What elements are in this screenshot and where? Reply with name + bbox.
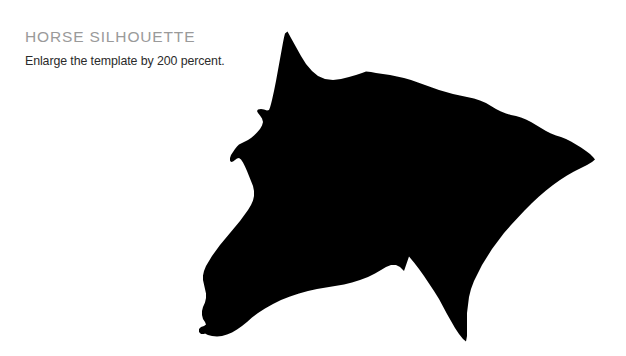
template-page: HORSE SILHOUETTE Enlarge the template by… — [0, 0, 626, 356]
horse-head-silhouette-icon — [199, 32, 595, 342]
page-title: HORSE SILHOUETTE — [25, 28, 225, 46]
page-subtitle: Enlarge the template by 200 percent. — [25, 46, 225, 69]
header-text-block: HORSE SILHOUETTE Enlarge the template by… — [25, 28, 225, 69]
